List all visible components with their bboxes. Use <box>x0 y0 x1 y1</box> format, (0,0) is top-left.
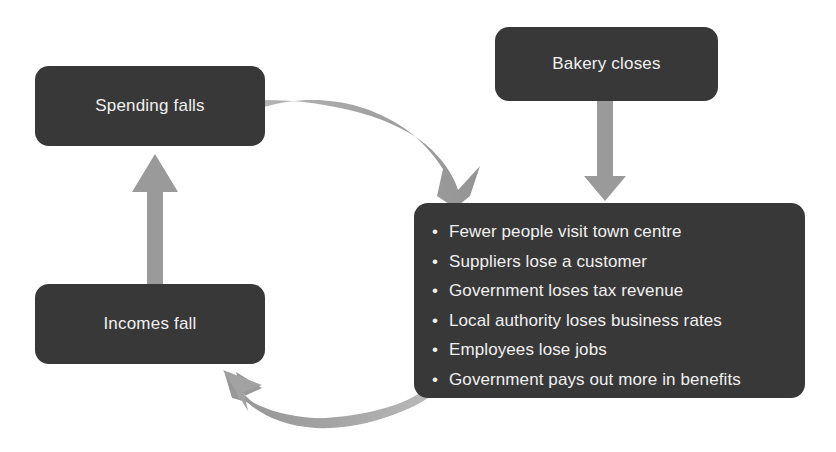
node-incomes-fall-label: Incomes fall <box>103 314 196 334</box>
effects-bullet-list: Fewer people visit town centre Suppliers… <box>432 217 787 394</box>
node-bakery-closes[interactable]: Bakery closes <box>495 27 718 101</box>
node-incomes-fall[interactable]: Incomes fall <box>35 284 265 364</box>
connector-effects-to-incomes-arrow <box>223 370 428 428</box>
list-item: Government pays out more in benefits <box>432 365 787 395</box>
list-item: Employees lose jobs <box>432 335 787 365</box>
node-effects-list[interactable]: Fewer people visit town centre Suppliers… <box>414 203 805 398</box>
list-item: Local authority loses business rates <box>432 306 787 336</box>
connector-spending-to-effects-arrow <box>264 100 480 208</box>
diagram-canvas: Bakery closes Spending falls Incomes fal… <box>0 0 836 452</box>
list-item: Fewer people visit town centre <box>432 217 787 247</box>
node-spending-falls[interactable]: Spending falls <box>35 66 265 146</box>
connector-bakery-to-effects-arrow <box>584 99 626 201</box>
list-item: Government loses tax revenue <box>432 276 787 306</box>
node-bakery-closes-label: Bakery closes <box>552 54 660 74</box>
node-spending-falls-label: Spending falls <box>95 96 205 116</box>
list-item: Suppliers lose a customer <box>432 247 787 277</box>
connector-incomes-to-spending-arrow <box>132 154 178 286</box>
